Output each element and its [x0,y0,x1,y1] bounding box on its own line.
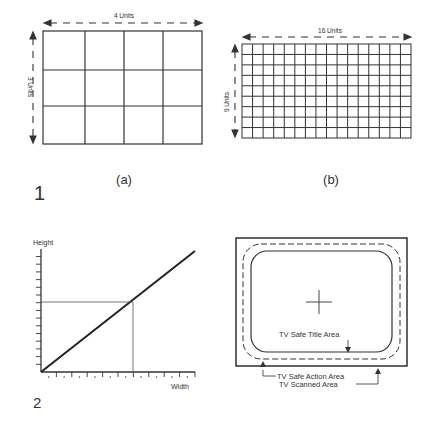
figure-1-number: 1 [34,182,45,204]
figure-canvas: 4 Units 3 Units (a) 1 16 Units 9 Units (… [0,0,430,423]
panel-b-16x9-grid [242,44,411,138]
tv-safe-action-area-outline [243,244,400,359]
panel-a-4x3-grid [43,31,202,144]
x-axis-label-width: Width [171,383,189,390]
panel-a-caption: (a) [116,172,132,187]
panel-a-width-arrow [44,20,202,26]
panel-b-width-label: 16 Units [318,27,343,34]
tv-safe-title-area-label: TV Safe Title Area [279,330,340,339]
panel-a-height-label: 3 Units [27,77,34,98]
y-axis-label-height: Height [33,239,53,247]
tv-scanned-area-label: TV Scanned Area [279,380,339,389]
tv-safe-area-diagram [236,238,407,384]
panel-b-height-label: 9 Units [223,91,230,112]
aspect-ratio-graph [36,249,195,378]
panel-b-width-arrow [243,34,411,40]
figure-2-number: 2 [33,394,41,411]
panel-b-height-arrow [232,45,238,137]
panel-b-caption: (b) [323,172,339,187]
panel-a-width-label: 4 Units [114,12,135,19]
